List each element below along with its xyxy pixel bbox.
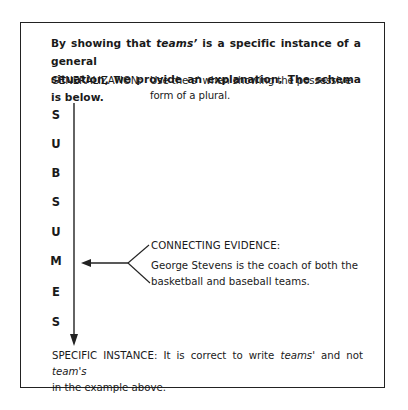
instance-text: SPECIFIC INSTANCE: It is correct to writ…	[52, 350, 280, 361]
instance-emphasis: teams'	[280, 350, 315, 361]
down-arrow-icon	[70, 334, 78, 346]
instance-text: and not	[315, 350, 363, 361]
left-arrow-icon	[81, 259, 91, 267]
instance-emphasis: team's	[52, 366, 87, 377]
fork-lower-branch	[128, 263, 150, 283]
fork-upper-branch	[128, 245, 149, 263]
evidence-line-1: George Stevens is the coach of both the	[151, 258, 358, 274]
evidence-line-2: basketball and baseball teams.	[151, 276, 310, 287]
instance-line-1: SPECIFIC INSTANCE: It is correct to writ…	[52, 348, 363, 380]
connecting-evidence-text: George Stevens is the coach of both the …	[151, 258, 358, 290]
instance-line-2: in the example above.	[52, 382, 166, 393]
specific-instance-text: SPECIFIC INSTANCE: It is correct to writ…	[52, 348, 363, 396]
connecting-evidence-label: CONNECTING EVIDENCE:	[151, 240, 280, 251]
